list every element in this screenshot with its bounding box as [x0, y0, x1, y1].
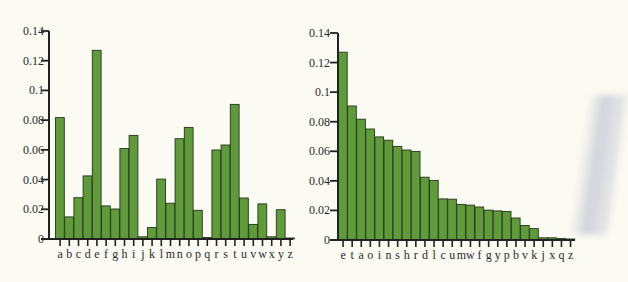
x-tick-label: w	[258, 247, 267, 261]
x-tick-label: l	[160, 247, 164, 261]
y-tick-label: 0.02	[23, 202, 44, 216]
bar-p	[194, 210, 203, 239]
y-tick-label: 0.12	[309, 56, 330, 70]
chart-alphabetical-frequency: abcdefghijklmnopqrstuvwxyz00.020.040.060…	[23, 24, 294, 261]
y-tick-label: 0.1	[29, 83, 44, 97]
x-tick-label: y	[278, 247, 284, 261]
x-tick-label: p	[195, 247, 201, 261]
bar-l	[430, 180, 439, 240]
bar-s	[221, 145, 230, 239]
bar-a	[357, 119, 366, 240]
x-tick-label: u	[241, 247, 247, 261]
bar-r	[212, 150, 221, 239]
x-tick-label: i	[132, 247, 136, 261]
x-tick-label: s	[395, 248, 400, 262]
x-tick-label: x	[269, 247, 275, 261]
y-tick-label: 0.08	[309, 115, 330, 129]
bar-b	[511, 218, 520, 240]
y-tick-label: 0	[38, 232, 44, 246]
y-tick-label: 0.12	[23, 54, 44, 68]
bar-g	[111, 209, 120, 239]
bar-v	[249, 224, 258, 239]
bar-u	[240, 198, 249, 239]
y-tick-label: 0.02	[309, 203, 330, 217]
chart-sorted-frequency: etaoinshrdlcumwfgypbvkjxqz00.020.040.060…	[309, 26, 575, 262]
x-tick-label: n	[177, 247, 183, 261]
y-tick-label: 0.04	[23, 173, 44, 187]
bar-f	[102, 206, 111, 239]
bar-m	[166, 203, 175, 239]
bar-p	[502, 212, 511, 241]
x-tick-label: o	[186, 247, 192, 261]
x-tick-label: q	[558, 248, 564, 262]
x-tick-label: d	[85, 247, 91, 261]
bar-o	[366, 129, 375, 240]
bar-h	[120, 149, 129, 240]
y-tick-label: 0.14	[23, 24, 44, 38]
bar-s	[393, 146, 402, 240]
bar-n	[384, 140, 393, 240]
x-tick-label: c	[76, 247, 81, 261]
y-tick-label: 0.06	[23, 143, 44, 157]
x-tick-label: h	[122, 247, 128, 261]
y-tick-label: 0.14	[309, 26, 330, 40]
y-tick-label: 0.1	[315, 85, 330, 99]
x-tick-label: n	[386, 248, 392, 262]
x-tick-label: g	[112, 247, 118, 261]
bar-r	[411, 151, 420, 240]
bar-t	[348, 106, 357, 240]
x-tick-label: j	[541, 248, 545, 262]
x-tick-label: k	[531, 248, 537, 262]
x-tick-label: g	[486, 248, 492, 262]
bar-v	[521, 226, 530, 241]
y-tick-label: 0.06	[309, 144, 330, 158]
bar-y	[276, 210, 285, 239]
bar-c	[74, 198, 83, 239]
y-tick-label: 0.04	[309, 174, 330, 188]
bar-k	[148, 228, 157, 239]
bar-e	[92, 50, 101, 239]
x-tick-label: h	[404, 248, 410, 262]
bar-d	[83, 176, 92, 239]
x-tick-label: v	[250, 247, 256, 261]
x-tick-label: e	[340, 248, 345, 262]
bar-o	[184, 127, 193, 239]
bar-m	[457, 204, 466, 240]
x-tick-label: y	[495, 248, 501, 262]
x-tick-label: d	[422, 248, 428, 262]
bar-w	[258, 204, 267, 239]
x-tick-label: z	[568, 248, 573, 262]
bar-l	[157, 179, 166, 239]
x-tick-label: v	[522, 248, 528, 262]
x-tick-label: e	[94, 247, 99, 261]
bar-y	[493, 211, 502, 240]
x-tick-label: w	[466, 248, 475, 262]
x-tick-label: o	[367, 248, 373, 262]
x-tick-label: x	[549, 248, 555, 262]
x-tick-label: m	[166, 247, 176, 261]
bar-g	[484, 210, 493, 240]
x-tick-label: c	[440, 248, 445, 262]
y-tick-label: 0	[324, 233, 330, 247]
x-tick-label: u	[449, 248, 455, 262]
x-tick-label: p	[504, 248, 510, 262]
x-tick-label: b	[66, 247, 72, 261]
bar-i	[129, 135, 138, 239]
x-tick-label: b	[513, 248, 519, 262]
bar-a	[56, 118, 65, 239]
bar-f	[475, 207, 484, 240]
x-tick-label: i	[378, 248, 382, 262]
bar-k	[530, 229, 539, 240]
y-tick-label: 0.08	[23, 113, 44, 127]
x-tick-label: q	[204, 247, 210, 261]
x-tick-label: a	[57, 247, 63, 261]
bar-d	[420, 177, 429, 240]
bar-c	[439, 199, 448, 240]
x-tick-label: r	[215, 247, 219, 261]
x-tick-label: s	[223, 247, 228, 261]
bar-e	[339, 52, 348, 240]
x-tick-label: f	[478, 248, 482, 262]
bar-u	[448, 199, 457, 240]
